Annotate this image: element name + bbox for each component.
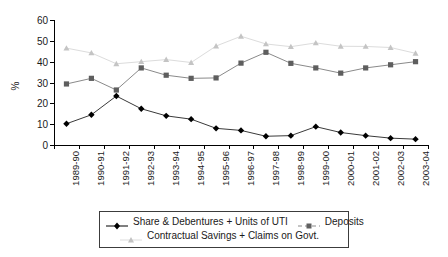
chart-legend: Share & Debentures + Units of UTI Deposi…: [99, 211, 349, 248]
data-point: [89, 76, 94, 81]
data-point: [213, 125, 219, 131]
x-tick-label: 1991-92: [120, 151, 131, 186]
data-point: [387, 135, 393, 141]
x-tick-mark: [129, 145, 130, 149]
data-point: [263, 133, 269, 139]
x-tick-label: 1998-99: [295, 151, 306, 186]
data-point: [163, 113, 169, 119]
data-point: [63, 121, 69, 127]
x-tick-label: 2002-03: [395, 151, 406, 186]
data-point: [362, 132, 368, 138]
x-tick-mark: [428, 145, 429, 149]
x-tick-label: 1993-94: [170, 151, 181, 186]
y-tick-label: 30: [37, 77, 48, 88]
x-tick-mark: [104, 145, 105, 149]
x-tick-mark: [54, 145, 55, 149]
x-tick-label: 1999-00: [320, 151, 331, 186]
legend-entry-deposits[interactable]: Deposits: [298, 216, 364, 228]
x-tick-mark: [204, 145, 205, 149]
x-tick-mark: [278, 145, 279, 149]
data-point: [114, 87, 119, 92]
legend-entry-share-debentures[interactable]: Share & Debentures + Units of UTI: [106, 216, 288, 228]
data-point: [288, 132, 294, 138]
x-tick-label: 1995-96: [220, 151, 231, 186]
data-point: [338, 71, 343, 76]
data-point: [288, 61, 293, 66]
legend-entry-contractual-savings[interactable]: Contractual Savings + Claims on Govt.: [120, 230, 319, 242]
x-tick-label: 2001-02: [370, 151, 381, 186]
x-tick-mark: [353, 145, 354, 149]
y-axis-title: %: [6, 76, 26, 96]
data-point: [388, 62, 393, 67]
data-point: [138, 106, 144, 112]
x-tick-mark: [79, 145, 80, 149]
data-point: [188, 116, 194, 122]
data-point: [139, 65, 144, 70]
legend-row-1: Share & Debentures + Units of UTI Deposi…: [106, 215, 342, 229]
x-axis-line: [54, 145, 428, 146]
data-point: [363, 65, 368, 70]
data-point: [213, 75, 218, 80]
series-line: [66, 36, 415, 64]
data-point: [313, 65, 318, 70]
x-tick-mark: [403, 145, 404, 149]
data-point: [313, 123, 319, 129]
x-tick-label: 1990-91: [95, 151, 106, 186]
x-tick-label: 1996-97: [245, 151, 256, 186]
data-point: [189, 76, 194, 81]
x-tick-mark: [229, 145, 230, 149]
y-tick-label: 10: [37, 119, 48, 130]
data-point: [164, 73, 169, 78]
x-tick-mark: [303, 145, 304, 149]
y-tick-label: 60: [37, 15, 48, 26]
x-tick-label: 2000-01: [345, 151, 356, 186]
diamond-marker-icon: [106, 217, 128, 227]
x-tick-label: 1994-95: [195, 151, 206, 186]
chart-container: % 0102030405060 1989-901990-911991-92199…: [0, 0, 448, 257]
series-line: [66, 52, 415, 90]
x-tick-mark: [253, 145, 254, 149]
data-point: [63, 45, 69, 50]
y-tick-label: 0: [42, 140, 48, 151]
y-tick-label: 20: [37, 98, 48, 109]
x-tick-mark: [179, 145, 180, 149]
data-point: [263, 50, 268, 55]
data-point: [338, 129, 344, 135]
x-tick-label: 1997-98: [270, 151, 281, 186]
data-point: [238, 33, 244, 38]
x-tick-label: 1989-90: [70, 151, 81, 186]
x-tick-mark: [154, 145, 155, 149]
legend-label: Deposits: [325, 216, 364, 228]
data-point: [313, 40, 319, 45]
y-tick-label: 50: [37, 35, 48, 46]
legend-label: Contractual Savings + Claims on Govt.: [147, 230, 319, 242]
triangle-marker-icon: [120, 231, 142, 241]
series-layer: [54, 20, 428, 145]
x-tick-label: 1992-93: [145, 151, 156, 186]
data-point: [412, 136, 418, 142]
square-marker-icon: [298, 217, 320, 227]
data-point: [64, 81, 69, 86]
data-point: [238, 61, 243, 66]
data-point: [238, 127, 244, 133]
legend-label: Share & Debentures + Units of UTI: [133, 216, 288, 228]
x-tick-mark: [378, 145, 379, 149]
data-point: [413, 59, 418, 64]
y-tick-label: 40: [37, 56, 48, 67]
x-tick-mark: [328, 145, 329, 149]
legend-row-2: Contractual Savings + Claims on Govt.: [106, 229, 342, 243]
plot-area: 0102030405060: [54, 20, 428, 145]
x-tick-label: 2003-04: [420, 151, 431, 186]
